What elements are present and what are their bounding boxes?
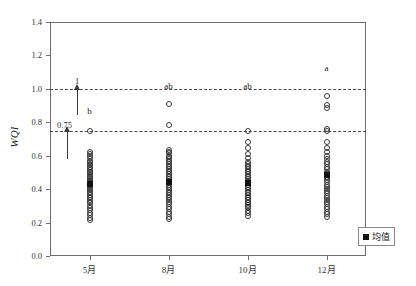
- y-tick-label: 0.0: [16, 251, 42, 261]
- mean-marker: [245, 180, 251, 186]
- y-tick-mark: [46, 22, 50, 23]
- significance-letter: ab: [149, 81, 189, 91]
- y-axis-title: WQI: [8, 117, 20, 157]
- reference-arrow: [67, 131, 68, 159]
- y-tick-mark: [46, 256, 50, 257]
- reference-line-label: 1: [75, 76, 79, 86]
- x-tick-mark: [169, 256, 170, 260]
- x-tick-mark: [248, 256, 249, 260]
- y-tick-mark: [46, 156, 50, 157]
- data-point: [324, 128, 330, 134]
- data-point: [324, 105, 330, 111]
- data-point: [87, 128, 93, 134]
- y-tick-label: 0.2: [16, 218, 42, 228]
- data-point: [166, 216, 172, 222]
- x-tick-mark: [327, 256, 328, 260]
- chart-container: 0.00.20.40.60.81.01.21.4 5月8月10月12月 WQI …: [0, 0, 416, 286]
- data-point: [245, 139, 251, 145]
- significance-letter: ab: [228, 81, 268, 91]
- data-point: [324, 214, 330, 220]
- y-tick-mark: [46, 55, 50, 56]
- legend: 均值: [358, 227, 395, 246]
- x-tick-label: 8月: [144, 263, 194, 276]
- mean-marker: [324, 172, 330, 178]
- y-tick-mark: [46, 122, 50, 123]
- reference-line: [50, 89, 366, 90]
- reference-line-label: 0.75: [57, 120, 72, 130]
- y-tick-mark: [46, 223, 50, 224]
- mean-marker: [166, 179, 172, 185]
- data-point: [166, 101, 172, 107]
- mean-marker-icon: [363, 234, 369, 240]
- data-point: [166, 122, 172, 128]
- y-tick-label: 0.4: [16, 184, 42, 194]
- x-tick-mark: [90, 256, 91, 260]
- reference-line: [50, 131, 366, 132]
- y-tick-label: 1.2: [16, 50, 42, 60]
- y-tick-label: 1.4: [16, 17, 42, 27]
- data-point: [245, 213, 251, 219]
- significance-letter: b: [70, 106, 110, 116]
- x-tick-label: 12月: [302, 263, 352, 276]
- plot-area: [50, 22, 366, 256]
- data-point: [87, 217, 93, 223]
- mean-marker: [87, 181, 93, 187]
- x-tick-label: 10月: [223, 263, 273, 276]
- x-tick-label: 5月: [65, 263, 115, 276]
- significance-letter: a: [307, 63, 347, 73]
- data-point: [324, 93, 330, 99]
- y-tick-mark: [46, 189, 50, 190]
- y-tick-label: 1.0: [16, 84, 42, 94]
- legend-label-mean: 均值: [372, 230, 390, 243]
- data-point: [245, 128, 251, 134]
